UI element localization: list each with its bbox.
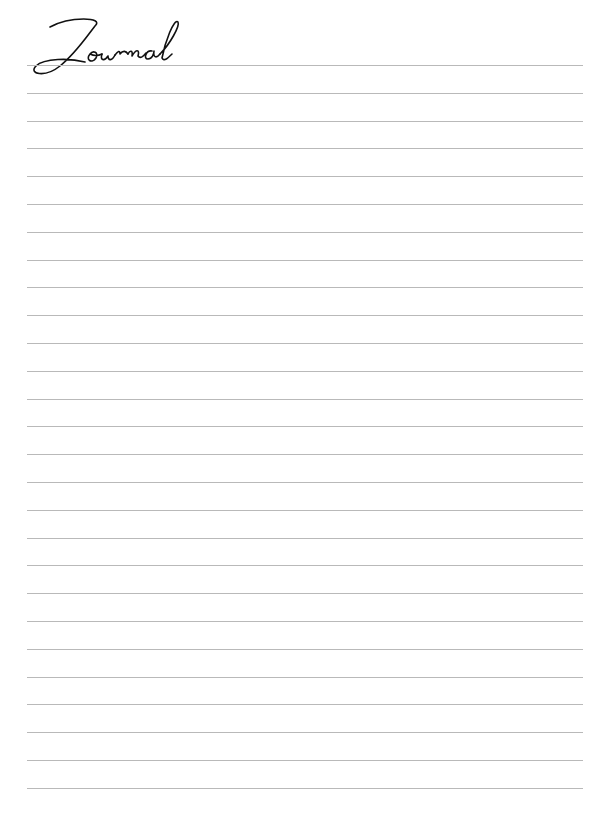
ruled-line bbox=[27, 482, 583, 483]
ruled-line bbox=[27, 176, 583, 177]
ruled-line bbox=[27, 677, 583, 678]
ruled-line bbox=[27, 732, 583, 733]
ruled-line bbox=[27, 65, 583, 66]
ruled-line bbox=[27, 454, 583, 455]
ruled-line bbox=[27, 426, 583, 427]
ruled-line bbox=[27, 538, 583, 539]
ruled-line bbox=[27, 148, 583, 149]
ruled-line bbox=[27, 204, 583, 205]
ruled-line bbox=[27, 315, 583, 316]
ruled-line bbox=[27, 399, 583, 400]
ruled-line bbox=[27, 704, 583, 705]
ruled-line bbox=[27, 93, 583, 94]
ruled-line bbox=[27, 121, 583, 122]
ruled-line bbox=[27, 565, 583, 566]
ruled-line bbox=[27, 788, 583, 789]
ruled-line bbox=[27, 510, 583, 511]
ruled-line bbox=[27, 343, 583, 344]
ruled-line bbox=[27, 371, 583, 372]
ruled-line bbox=[27, 649, 583, 650]
ruled-line bbox=[27, 621, 583, 622]
ruled-line bbox=[27, 760, 583, 761]
ruled-line bbox=[27, 232, 583, 233]
ruled-lines bbox=[27, 0, 583, 820]
ruled-line bbox=[27, 260, 583, 261]
ruled-line bbox=[27, 287, 583, 288]
ruled-line bbox=[27, 593, 583, 594]
